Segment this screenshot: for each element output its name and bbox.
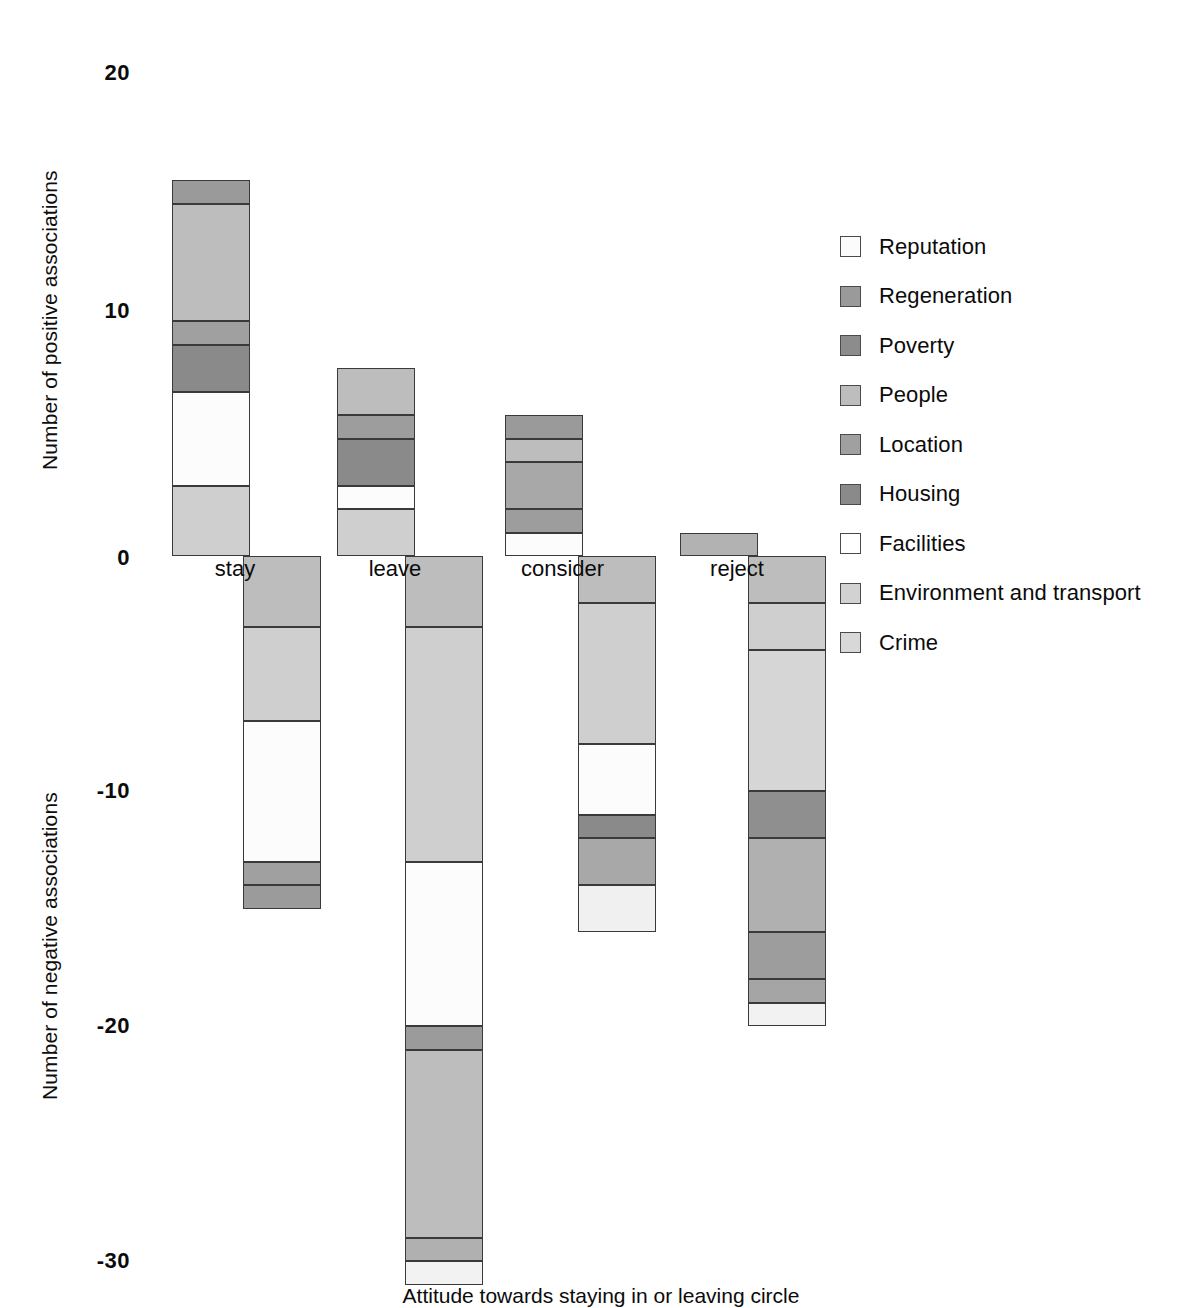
- bar-segment-stay-facilities: [172, 392, 250, 486]
- bar-segment-reject-crime: [748, 650, 826, 791]
- legend-swatch-icon: [840, 286, 861, 307]
- bar-segment-consider-crime: [505, 533, 583, 557]
- bar-segment-stay-housing: [172, 345, 250, 392]
- legend-item-poverty[interactable]: Poverty: [840, 321, 1190, 371]
- legend-item-environment-and-transport[interactable]: Environment and transport: [840, 569, 1190, 619]
- bar-segment-leave-housing: [405, 1050, 483, 1238]
- chart-legend: ReputationRegenerationPovertyPeopleLocat…: [840, 222, 1190, 668]
- bar-segment-reject-housing: [748, 838, 826, 932]
- bar-segment-consider-location: [505, 509, 583, 533]
- bar-segment-reject-poverty: [748, 932, 826, 979]
- bar-segment-leave-housing: [337, 439, 415, 486]
- bar-segment-consider-environment-and-transport: [578, 603, 656, 744]
- bar-segment-stay-regeneration: [172, 180, 250, 204]
- legend-label: Regeneration: [879, 283, 1012, 309]
- bar-segment-reject-location: [748, 791, 826, 838]
- bar-segment-consider-regeneration: [505, 415, 583, 439]
- bar-segment-leave-facilities: [405, 862, 483, 1027]
- bar-segment-reject-people: [680, 533, 758, 557]
- legend-item-location[interactable]: Location: [840, 420, 1190, 470]
- bar-segment-consider-housing: [578, 838, 656, 885]
- legend-item-crime[interactable]: Crime: [840, 618, 1190, 668]
- legend-label: Location: [879, 432, 963, 458]
- legend-label: People: [879, 382, 948, 408]
- legend-label: Facilities: [879, 531, 966, 557]
- bar-segment-stay-people: [172, 204, 250, 322]
- bar-segment-leave-people: [337, 368, 415, 415]
- legend-swatch-icon: [840, 533, 861, 554]
- legend-label: Reputation: [879, 234, 986, 260]
- legend-label: Crime: [879, 630, 938, 656]
- legend-swatch-icon: [840, 385, 861, 406]
- legend-swatch-icon: [840, 484, 861, 505]
- legend-item-housing[interactable]: Housing: [840, 470, 1190, 520]
- bar-segment-leave-location: [337, 415, 415, 439]
- legend-swatch-icon: [840, 335, 861, 356]
- bar-segment-consider-people: [505, 439, 583, 463]
- legend-swatch-icon: [840, 583, 861, 604]
- bar-segment-leave-environment-and-transport: [405, 627, 483, 862]
- category-label-consider: consider: [490, 556, 635, 582]
- legend-item-reputation[interactable]: Reputation: [840, 222, 1190, 272]
- legend-item-regeneration[interactable]: Regeneration: [840, 272, 1190, 322]
- bar-segment-stay-location: [172, 321, 250, 345]
- bar-segment-stay-location: [243, 862, 321, 886]
- legend-label: Poverty: [879, 333, 954, 359]
- category-label-reject: reject: [672, 556, 802, 582]
- bar-segment-reject-environment-and-transport: [748, 603, 826, 650]
- bar-segment-consider-housing: [505, 462, 583, 509]
- legend-label: Housing: [879, 481, 960, 507]
- bar-segment-consider-location: [578, 815, 656, 839]
- bar-segment-stay-facilities: [243, 721, 321, 862]
- bar-segment-reject-regeneration: [748, 979, 826, 1003]
- bar-segment-leave-environment-and-transport: [337, 509, 415, 556]
- legend-swatch-icon: [840, 236, 861, 257]
- legend-swatch-icon: [840, 632, 861, 653]
- bar-segment-leave-reputation: [405, 1261, 483, 1285]
- bar-segment-reject-reputation: [748, 1003, 826, 1027]
- legend-item-facilities[interactable]: Facilities: [840, 519, 1190, 569]
- bar-segment-leave-location: [405, 1026, 483, 1050]
- legend-swatch-icon: [840, 434, 861, 455]
- x-axis-title: Attitude towards staying in or leaving c…: [0, 1284, 1202, 1308]
- bar-segment-leave-crime: [405, 1238, 483, 1262]
- category-label-leave: leave: [335, 556, 455, 582]
- category-label-stay: stay: [175, 556, 295, 582]
- bar-segment-stay-housing: [243, 885, 321, 909]
- bar-segment-leave-facilities: [337, 486, 415, 510]
- legend-item-people[interactable]: People: [840, 371, 1190, 421]
- bar-segment-stay-environment-and-transport: [243, 627, 321, 721]
- bar-segment-consider-crime: [578, 885, 656, 932]
- bar-segment-consider-facilities: [578, 744, 656, 815]
- legend-label: Environment and transport: [879, 580, 1141, 606]
- bar-segment-stay-environment-and-transport: [172, 486, 250, 557]
